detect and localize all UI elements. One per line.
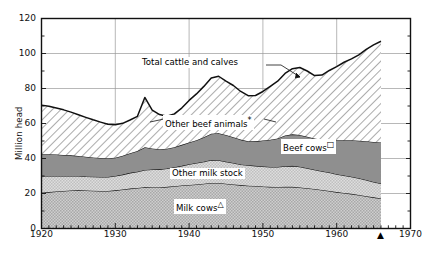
chart-figure: Million head 020406080100120 19201930194… bbox=[0, 0, 437, 255]
annotation-beef-cows-text: Beef cows bbox=[283, 143, 327, 153]
annotation-other-beef-animals: Other beef animals* bbox=[163, 115, 254, 130]
annotation-total-cattle: Total cattle and calves bbox=[140, 57, 240, 68]
asterisk-icon: * bbox=[248, 116, 252, 125]
annotation-beef-cows: Beef cows□ bbox=[281, 139, 336, 154]
x-axis-marker-triangle-icon: ▲ bbox=[377, 231, 384, 240]
annotation-other-milk-stock: Other milk stock bbox=[170, 168, 245, 179]
square-icon: □ bbox=[327, 140, 335, 149]
annotation-other-milk-stock-text: Other milk stock bbox=[172, 168, 243, 178]
annotation-other-beef-animals-text: Other beef animals bbox=[165, 119, 248, 129]
triangle-icon: △ bbox=[217, 200, 223, 209]
annotation-milk-cows-text: Milk cows bbox=[176, 203, 217, 213]
annotation-total-cattle-text: Total cattle and calves bbox=[142, 57, 238, 67]
annotation-milk-cows: Milk cows△ bbox=[174, 199, 226, 214]
